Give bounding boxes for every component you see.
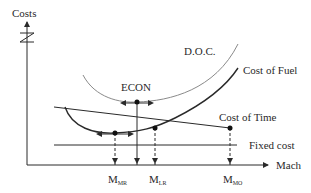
- mlr-tick-label: MLR: [149, 174, 166, 186]
- mlr-sub: LR: [159, 180, 167, 186]
- mmr-main: M: [108, 173, 118, 185]
- time-line: [54, 107, 230, 128]
- mmo-tick-label: MMO: [223, 174, 242, 186]
- fixed-cost-label: Fixed cost: [249, 140, 295, 151]
- y-axis-label: Costs: [12, 8, 36, 19]
- mmr-point: [113, 131, 118, 136]
- econ-label: ECON: [121, 82, 151, 93]
- x-axis-label: Mach: [276, 160, 301, 171]
- mmr-sub: MR: [118, 180, 127, 186]
- mmo-main: M: [223, 173, 233, 185]
- mmo-point: [228, 126, 233, 131]
- drop-arrowheads: [112, 158, 233, 164]
- mlr-main: M: [149, 173, 159, 185]
- econ-point: [135, 100, 140, 105]
- mmr-tick-label: MMR: [108, 174, 127, 186]
- time-label: Cost of Time: [219, 112, 276, 123]
- cost-mach-diagram: [0, 0, 311, 193]
- fuel-label: Cost of Fuel: [243, 65, 297, 76]
- mmo-sub: MO: [233, 180, 243, 186]
- mlr-point: [153, 126, 158, 131]
- doc-label: D.O.C.: [184, 46, 215, 57]
